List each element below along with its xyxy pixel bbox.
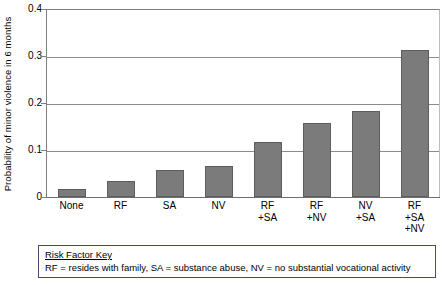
x-axis-tick-labels: NoneRFSANVRF+SARF+NVNV+SARF+SA+NV [47, 200, 439, 246]
risk-factor-key-text: RF = resides with family, SA = substance… [45, 261, 429, 274]
bar[interactable] [401, 50, 429, 197]
y-axis-title: Probability of minor violence in 6 month… [3, 17, 13, 192]
bar[interactable] [107, 181, 135, 197]
x-tick-label: SA [145, 200, 194, 212]
bar-slot [292, 9, 341, 197]
risk-factor-key-title: Risk Factor Key [45, 249, 429, 261]
x-tick-label: NV+SA [341, 200, 390, 223]
x-tick-label-line: +NV [390, 223, 439, 235]
x-tick-label-line: RF [390, 200, 439, 212]
x-tick-label: None [47, 200, 96, 212]
y-axis-tick-labels: 0.40.30.20.10 [14, 0, 42, 285]
bar-chart-figure: Probability of minor violence in 6 month… [0, 0, 446, 285]
y-tick-mark [41, 197, 46, 198]
y-tick-label: 0.3 [14, 51, 42, 61]
bar-slot [47, 9, 96, 197]
bar-slot [145, 9, 194, 197]
bar[interactable] [156, 170, 184, 197]
y-tick-mark [41, 56, 46, 57]
y-tick-mark [41, 9, 46, 10]
bar-slot [194, 9, 243, 197]
y-tick-label: 0.2 [14, 98, 42, 108]
x-tick-label-line: RF [243, 200, 292, 212]
y-tick-mark [41, 103, 46, 104]
x-tick-label-line: +SA [243, 212, 292, 224]
x-tick-label-line: RF [96, 200, 145, 212]
bar-series [47, 9, 439, 197]
bar[interactable] [303, 123, 331, 197]
x-tick-label-line: NV [194, 200, 243, 212]
bar-slot [390, 9, 439, 197]
x-tick-label: RF [96, 200, 145, 212]
risk-factor-key-box: Risk Factor Key RF = resides with family… [38, 245, 436, 278]
bar-slot [341, 9, 390, 197]
x-tick-label-line: NV [341, 200, 390, 212]
bar-slot [96, 9, 145, 197]
x-tick-label-line: +SA [341, 212, 390, 224]
bar-slot [243, 9, 292, 197]
x-tick-label-line: None [47, 200, 96, 212]
x-tick-label: RF+SA [243, 200, 292, 223]
bar[interactable] [205, 166, 233, 197]
x-tick-label-line: SA [145, 200, 194, 212]
y-tick-mark [41, 150, 46, 151]
x-tick-label: NV [194, 200, 243, 212]
y-tick-label: 0.4 [14, 4, 42, 14]
bar[interactable] [352, 111, 380, 197]
x-tick-label-line: +SA [390, 212, 439, 224]
y-tick-label: 0 [14, 192, 42, 202]
bar[interactable] [254, 142, 282, 197]
y-tick-label: 0.1 [14, 145, 42, 155]
x-tick-label: RF+SA+NV [390, 200, 439, 235]
x-axis-line [46, 197, 440, 198]
bar[interactable] [58, 189, 86, 197]
x-tick-label-line: RF [292, 200, 341, 212]
x-tick-label-line: +NV [292, 212, 341, 224]
x-tick-label: RF+NV [292, 200, 341, 223]
